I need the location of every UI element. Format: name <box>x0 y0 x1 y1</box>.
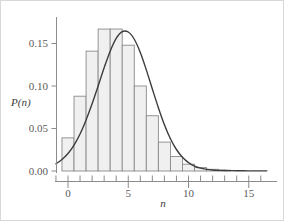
x-tick-label: 0 <box>65 187 71 199</box>
x-tick-label: 5 <box>126 187 132 199</box>
histogram-bar <box>134 86 146 171</box>
chart-figure: 0.000.050.100.15 051015 P(n) n <box>0 0 284 221</box>
y-tick-label: 0.05 <box>29 122 49 134</box>
y-tick-label: 0.15 <box>29 37 49 49</box>
histogram-bar <box>158 142 170 171</box>
x-tick-label: 15 <box>243 187 255 199</box>
histogram-bar <box>110 29 122 171</box>
y-axis: 0.000.050.100.15 <box>29 17 57 177</box>
bars-group <box>62 29 231 171</box>
histogram-bar <box>98 29 110 171</box>
x-tick-label: 10 <box>183 187 195 199</box>
histogram-plot: 0.000.050.100.15 051015 P(n) n <box>1 1 284 221</box>
histogram-bar <box>170 157 182 171</box>
y-tick-group: 0.000.050.100.15 <box>29 37 57 177</box>
histogram-bar <box>146 116 158 171</box>
x-axis-title: n <box>160 197 166 209</box>
y-tick-label: 0.00 <box>29 165 49 177</box>
x-tick-group: 051015 <box>56 176 261 200</box>
histogram-bar <box>86 51 98 171</box>
x-axis: 051015 <box>55 176 277 200</box>
y-axis-title: P(n) <box>10 96 31 109</box>
histogram-bar <box>122 45 134 171</box>
y-tick-label: 0.10 <box>29 80 49 92</box>
